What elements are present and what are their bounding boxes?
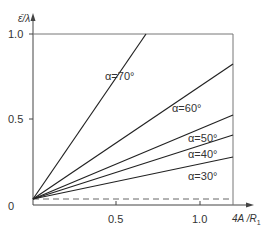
ytick-label-0: 0 [8,200,14,212]
xtick-label-05: 0.5 [108,213,123,225]
series-line-70 [33,34,146,199]
x-axis-arrow-icon [246,203,254,208]
series-label-60: α=60° [172,102,201,114]
series-label-40: α=40° [188,148,217,160]
x-axis-label: 4A /R1 [232,213,261,226]
x-axis-label-sub: 1 [257,219,261,226]
x-axis-label-main: 4A /R [232,213,257,224]
series-label-70: α=70° [105,70,134,82]
series-label-30: α=30° [188,170,217,182]
xtick-label-10: 1.0 [192,213,207,225]
series-line-40 [33,135,233,199]
chart: 0 0.5 1.0 0.5 1.0 ε̄/λ 4A /R1 α=70° α=60… [0,0,266,236]
y-axis-label: ε̄/λ [18,13,30,24]
ytick-label-05: 0.5 [8,113,23,125]
series-label-50: α=50° [188,132,217,144]
y-axis-arrow-icon [31,13,36,21]
ytick-label-10: 1.0 [8,28,23,40]
